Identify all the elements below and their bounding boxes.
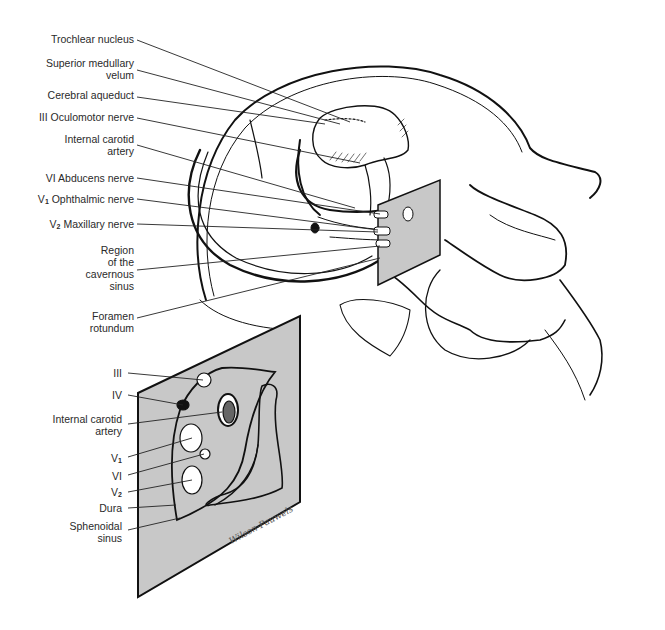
label-inset-vi: VI xyxy=(112,470,122,482)
label-maxillary-nerve: V2 Maxillary nerve xyxy=(50,218,134,233)
midbrain xyxy=(313,106,409,168)
label-superior-medullary-velum: Superior medullaryvelum xyxy=(46,57,134,81)
label-inset-v1: V1 xyxy=(111,452,122,467)
label-abducens-nerve: VI Abducens nerve xyxy=(46,172,134,184)
label-inset-sphenoidal-sinus: Sphenoidalsinus xyxy=(69,520,122,544)
label-inset-iv: IV xyxy=(112,389,122,401)
anatomy-figure: Trochlear nucleus Superior medullaryvelu… xyxy=(0,0,665,630)
section-plane-inset xyxy=(138,316,300,597)
label-inset-dura: Dura xyxy=(99,502,122,514)
label-inset-iii: III xyxy=(113,367,122,379)
label-internal-carotid-artery: Internal carotidartery xyxy=(65,133,134,157)
label-cerebral-aqueduct: Cerebral aqueduct xyxy=(48,89,134,101)
label-ophthalmic-nerve: V1 Ophthalmic nerve xyxy=(38,193,134,208)
label-inset-internal-carotid: Internal carotidartery xyxy=(53,413,122,437)
label-trochlear-nucleus: Trochlear nucleus xyxy=(51,33,134,45)
label-foramen-rotundum: Foramenrotundum xyxy=(90,310,134,334)
label-cavernous-sinus-region: Regionof thecavernoussinus xyxy=(86,244,134,292)
label-inset-v2: V2 xyxy=(111,486,122,501)
inset-cn-vi xyxy=(200,449,210,459)
label-oculomotor-nerve: III Oculomotor nerve xyxy=(39,111,134,123)
